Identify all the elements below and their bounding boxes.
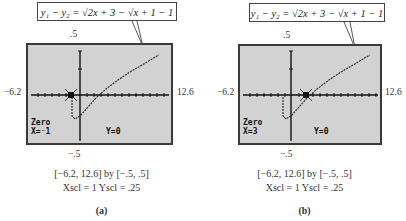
x-value: X=⁻1 xyxy=(31,128,50,136)
graph xyxy=(240,46,384,147)
calculator-screen: Zero X=⁻1 Y=0 xyxy=(26,43,173,145)
scale-caption: Xscl = 1 Yscl = .25 xyxy=(0,182,203,193)
window-caption: [−6.2, 12.6] by [−.5, .5] xyxy=(203,168,406,179)
zero-label: Zero xyxy=(31,119,50,127)
scale-caption: Xscl = 1 Yscl = .25 xyxy=(203,182,406,193)
calculator-screen: Zero X=3 Y=0 xyxy=(238,44,382,145)
ymin-label: −.5 xyxy=(68,149,80,159)
panel-label: (a) xyxy=(0,205,203,216)
ymax-label: .5 xyxy=(283,30,290,40)
ymax-label: .5 xyxy=(70,29,77,39)
xmax-label: 12.6 xyxy=(385,87,402,97)
window-caption: [−6.2, 12.6] by [−.5, .5] xyxy=(0,168,203,179)
ymin-label: −.5 xyxy=(280,149,292,159)
panel-b: y₁ − y₂ = √2x + 3 − √x + 1 − 1 .5 −6.2 1… xyxy=(203,0,406,221)
y-value: Y=0 xyxy=(314,128,328,136)
xmin-label: −6.2 xyxy=(4,87,21,97)
panel-a: y₁ − y₂ = √2x + 3 − √x + 1 − 1 .5 −6.2 1… xyxy=(0,0,203,221)
zero-label: Zero xyxy=(243,119,262,127)
y-value: Y=0 xyxy=(106,128,120,136)
xmin-label: −6.2 xyxy=(217,87,234,97)
xmax-label: 12.6 xyxy=(177,87,194,97)
x-value: X=3 xyxy=(243,128,257,136)
panel-label: (b) xyxy=(203,205,406,216)
